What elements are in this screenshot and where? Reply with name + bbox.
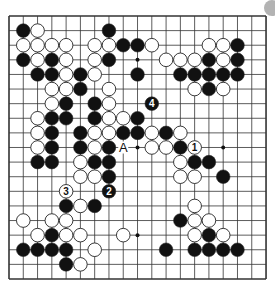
black-stone[interactable]	[88, 199, 102, 213]
black-stone[interactable]	[202, 243, 216, 257]
black-stone[interactable]	[231, 38, 245, 52]
white-stone[interactable]	[45, 38, 59, 52]
white-stone[interactable]	[88, 141, 102, 155]
white-stone[interactable]	[102, 82, 116, 96]
white-stone[interactable]	[116, 111, 130, 125]
black-stone[interactable]	[159, 126, 173, 140]
black-stone[interactable]	[45, 68, 59, 82]
black-stone[interactable]: 4	[145, 97, 159, 111]
black-stone[interactable]	[202, 228, 216, 242]
black-stone[interactable]	[59, 258, 73, 272]
black-stone[interactable]	[45, 53, 59, 67]
white-stone[interactable]	[59, 53, 73, 67]
black-stone[interactable]	[116, 38, 130, 52]
white-stone[interactable]	[88, 38, 102, 52]
black-stone[interactable]	[231, 53, 245, 67]
black-stone[interactable]	[31, 243, 45, 257]
black-stone[interactable]	[159, 243, 173, 257]
black-stone[interactable]: 2	[102, 185, 116, 199]
white-stone[interactable]	[59, 38, 73, 52]
black-stone[interactable]	[102, 155, 116, 169]
white-stone[interactable]	[216, 53, 230, 67]
white-stone[interactable]	[202, 214, 216, 228]
white-stone[interactable]	[102, 126, 116, 140]
black-stone[interactable]	[202, 82, 216, 96]
black-stone[interactable]	[74, 82, 88, 96]
white-stone[interactable]	[174, 170, 188, 184]
black-stone[interactable]	[131, 126, 145, 140]
black-stone[interactable]	[88, 97, 102, 111]
black-stone[interactable]	[31, 68, 45, 82]
white-stone[interactable]	[31, 141, 45, 155]
white-stone[interactable]	[31, 111, 45, 125]
white-stone[interactable]	[16, 214, 30, 228]
white-stone[interactable]	[188, 228, 202, 242]
white-stone[interactable]	[88, 243, 102, 257]
black-stone[interactable]	[45, 228, 59, 242]
white-stone[interactable]	[74, 258, 88, 272]
black-stone[interactable]	[102, 170, 116, 184]
white-stone[interactable]	[59, 214, 73, 228]
white-stone[interactable]	[188, 82, 202, 96]
white-stone[interactable]	[59, 68, 73, 82]
black-stone[interactable]	[31, 155, 45, 169]
black-stone[interactable]	[216, 170, 230, 184]
black-stone[interactable]	[88, 111, 102, 125]
white-stone[interactable]	[45, 214, 59, 228]
white-stone[interactable]	[74, 199, 88, 213]
white-stone[interactable]	[102, 97, 116, 111]
black-stone[interactable]	[74, 141, 88, 155]
black-stone[interactable]	[188, 155, 202, 169]
white-stone[interactable]: 1	[188, 141, 202, 155]
black-stone[interactable]	[102, 53, 116, 67]
black-stone[interactable]	[45, 141, 59, 155]
white-stone[interactable]	[159, 53, 173, 67]
white-stone[interactable]	[116, 228, 130, 242]
white-stone[interactable]	[174, 53, 188, 67]
white-stone[interactable]	[45, 82, 59, 96]
white-stone[interactable]	[31, 126, 45, 140]
black-stone[interactable]	[88, 155, 102, 169]
black-stone[interactable]	[16, 53, 30, 67]
white-stone[interactable]	[59, 228, 73, 242]
white-stone[interactable]	[102, 111, 116, 125]
white-stone[interactable]	[88, 68, 102, 82]
white-stone[interactable]: 3	[59, 185, 73, 199]
black-stone[interactable]	[174, 214, 188, 228]
black-stone[interactable]	[131, 111, 145, 125]
white-stone[interactable]	[174, 155, 188, 169]
white-stone[interactable]	[59, 82, 73, 96]
black-stone[interactable]	[174, 68, 188, 82]
white-stone[interactable]	[74, 155, 88, 169]
white-stone[interactable]	[188, 199, 202, 213]
white-stone[interactable]	[216, 82, 230, 96]
white-stone[interactable]	[31, 38, 45, 52]
white-stone[interactable]	[188, 53, 202, 67]
black-stone[interactable]	[216, 243, 230, 257]
white-stone[interactable]	[74, 228, 88, 242]
black-stone[interactable]	[188, 68, 202, 82]
white-stone[interactable]	[31, 53, 45, 67]
white-stone[interactable]	[216, 228, 230, 242]
white-stone[interactable]	[74, 170, 88, 184]
go-board[interactable]: 4132 A	[0, 0, 275, 294]
white-stone[interactable]	[188, 170, 202, 184]
black-stone[interactable]	[216, 68, 230, 82]
black-stone[interactable]	[16, 243, 30, 257]
white-stone[interactable]	[88, 53, 102, 67]
black-stone[interactable]	[131, 38, 145, 52]
white-stone[interactable]	[188, 214, 202, 228]
black-stone[interactable]	[102, 141, 116, 155]
black-stone[interactable]	[74, 68, 88, 82]
white-stone[interactable]	[88, 126, 102, 140]
black-stone[interactable]	[59, 111, 73, 125]
white-stone[interactable]	[31, 24, 45, 38]
white-stone[interactable]	[31, 228, 45, 242]
black-stone[interactable]	[102, 24, 116, 38]
black-stone[interactable]	[116, 126, 130, 140]
black-stone[interactable]	[174, 141, 188, 155]
white-stone[interactable]	[16, 38, 30, 52]
white-stone[interactable]	[145, 126, 159, 140]
white-stone[interactable]	[174, 126, 188, 140]
black-stone[interactable]	[202, 53, 216, 67]
